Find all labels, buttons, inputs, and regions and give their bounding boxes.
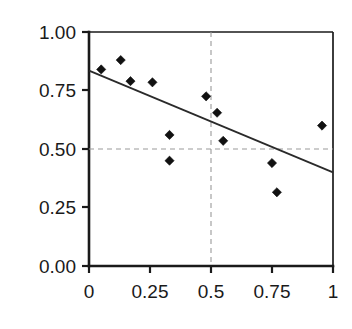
data-point <box>116 55 125 64</box>
data-point <box>219 136 228 145</box>
x-axis-label-0: 0 <box>84 281 95 302</box>
trend-line-group <box>89 71 333 173</box>
data-point <box>272 188 281 197</box>
data-point <box>267 158 276 167</box>
y-axis-tick-labels: 1.00 0.75 0.50 0.25 0.00 <box>39 22 76 277</box>
data-point <box>165 130 174 139</box>
reference-lines <box>89 32 333 266</box>
data-point <box>148 78 157 87</box>
data-point <box>126 77 135 86</box>
y-axis-label-3: 0.25 <box>39 197 76 218</box>
data-point <box>97 65 106 74</box>
y-axis-label-0: 1.00 <box>39 22 76 43</box>
scatter-chart: 1.00 0.75 0.50 0.25 0.00 0 0.25 0.5 0.75… <box>0 0 352 329</box>
y-axis-label-2: 0.50 <box>39 139 76 160</box>
data-point <box>202 92 211 101</box>
x-axis-label-1: 0.25 <box>132 281 169 302</box>
plot-svg: 1.00 0.75 0.50 0.25 0.00 0 0.25 0.5 0.75… <box>0 0 352 329</box>
scatter-markers <box>97 55 327 196</box>
y-axis-label-1: 0.75 <box>39 80 76 101</box>
data-point <box>213 108 222 117</box>
y-axis-label-4: 0.00 <box>39 256 76 277</box>
x-axis-label-3: 0.75 <box>254 281 291 302</box>
data-point <box>317 121 326 130</box>
x-axis-label-2: 0.5 <box>198 281 224 302</box>
x-axis-label-4: 1 <box>328 281 339 302</box>
x-axis-tick-labels: 0 0.25 0.5 0.75 1 <box>84 281 339 302</box>
data-point <box>165 156 174 165</box>
trend-line <box>89 71 333 173</box>
